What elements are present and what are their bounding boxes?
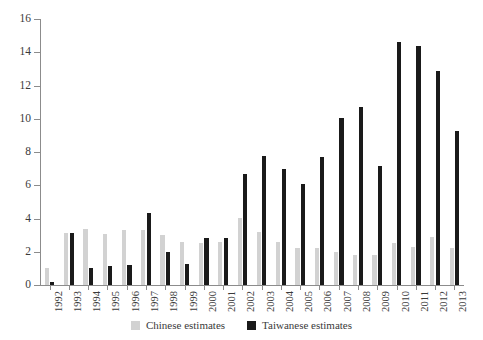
legend-item-taiwanese[interactable]: Taiwanese estimates [247,320,352,331]
bar-taiwanese-2004 [282,169,286,285]
bar-chart: 0246810121416 19921993199419951996199719… [0,0,483,340]
x-axis-line [40,285,464,286]
x-axis-tick [165,285,166,290]
y-axis-tick-label: 14 [0,47,31,59]
x-axis-tick [69,285,70,290]
bar-taiwanese-1996 [127,265,131,285]
y-axis-tick-label: 2 [0,246,31,258]
x-axis-tick [146,285,147,290]
bar-chinese-2012 [430,237,434,285]
bar-chinese-2004 [276,242,280,285]
bars-layer [40,19,464,285]
bar-taiwanese-2010 [397,42,401,285]
bar-taiwanese-1998 [166,252,170,285]
y-axis-tick-label: 4 [0,213,31,225]
bar-taiwanese-1997 [147,213,151,285]
x-axis-tick-label: 2010 [401,291,412,312]
bar-chinese-1993 [64,233,68,285]
bar-chinese-2005 [295,248,299,285]
bar-chinese-2010 [392,243,396,285]
x-axis-tick [358,285,359,290]
x-axis-tick [454,285,455,290]
x-axis-tick [262,285,263,290]
bar-taiwanese-1995 [108,266,112,285]
x-axis-tick-label: 2006 [323,291,334,312]
y-axis-tick-label: 12 [0,80,31,92]
x-axis-tick [204,285,205,290]
x-axis-tick [377,285,378,290]
x-axis-tick-label: 2012 [439,291,450,312]
bar-chinese-2007 [334,252,338,285]
x-axis-tick [127,285,128,290]
bar-taiwanese-2005 [301,184,305,285]
bar-chinese-2006 [315,248,319,285]
x-axis-tick-label: 2009 [381,291,392,312]
legend-swatch-icon [131,321,140,330]
y-axis-tick-label: 10 [0,113,31,125]
bar-chinese-1994 [83,229,87,285]
bar-chinese-2003 [257,232,261,285]
chart-legend: Chinese estimatesTaiwanese estimates [0,320,483,331]
bar-taiwanese-2003 [262,156,266,285]
x-axis-tick-label: 2000 [208,291,219,312]
bar-taiwanese-2007 [339,118,343,285]
x-axis-tick-label: 1994 [92,291,103,312]
bar-taiwanese-1999 [185,264,189,285]
bar-chinese-1997 [141,230,145,285]
x-axis-tick-label: 2003 [266,291,277,312]
x-axis-tick-label: 2005 [304,291,315,312]
x-axis-tick-label: 2007 [343,291,354,312]
x-axis-tick-label: 1996 [131,291,142,312]
bar-chinese-2013 [450,248,454,285]
bar-taiwanese-1993 [70,233,74,285]
bar-chinese-1996 [122,230,126,285]
bar-taiwanese-2013 [455,131,459,285]
y-axis-tick-label: 6 [0,180,31,192]
x-axis-tick [223,285,224,290]
bar-chinese-1998 [160,235,164,285]
y-axis-tick [34,285,40,286]
x-axis-tick-label: 1992 [54,291,65,312]
legend-label: Chinese estimates [146,320,225,331]
x-axis-tick [88,285,89,290]
x-axis-tick-label: 1993 [73,291,84,312]
legend-swatch-icon [247,321,256,330]
bar-taiwanese-2008 [359,107,363,285]
bar-taiwanese-2000 [204,238,208,285]
x-axis-tick-label: 2008 [362,291,373,312]
y-axis-tick-label: 8 [0,146,31,158]
bar-chinese-1999 [180,242,184,285]
x-axis-tick-label: 1995 [111,291,122,312]
x-axis-tick [185,285,186,290]
bar-taiwanese-1992 [50,282,54,285]
bar-chinese-1992 [45,268,49,285]
x-axis-tick [416,285,417,290]
bar-chinese-2008 [353,255,357,285]
x-axis-tick-label: 2002 [246,291,257,312]
x-axis-tick-label: 1999 [189,291,200,312]
x-axis-tick [107,285,108,290]
x-axis-tick [50,285,51,290]
bar-taiwanese-2001 [224,238,228,285]
x-axis-tick-label: 2011 [420,291,431,312]
bar-chinese-2001 [218,242,222,285]
x-axis-tick [339,285,340,290]
bar-taiwanese-2009 [378,166,382,285]
bar-chinese-1995 [103,234,107,285]
bar-taiwanese-2006 [320,157,324,285]
x-axis-tick-label: 2001 [227,291,238,312]
legend-item-chinese[interactable]: Chinese estimates [131,320,225,331]
x-axis-tick-label: 1998 [169,291,180,312]
x-axis-tick-label: 1997 [150,291,161,312]
bar-taiwanese-2002 [243,174,247,285]
x-axis-tick-label: 2013 [458,291,469,312]
bar-taiwanese-2012 [436,71,440,285]
x-axis-tick-label: 2004 [285,291,296,312]
x-axis-tick [281,285,282,290]
bar-chinese-2009 [372,255,376,285]
x-axis-tick [300,285,301,290]
x-axis-tick [397,285,398,290]
bar-taiwanese-1994 [89,268,93,285]
y-axis-tick-label: 16 [0,13,31,25]
bar-chinese-2002 [238,218,242,285]
